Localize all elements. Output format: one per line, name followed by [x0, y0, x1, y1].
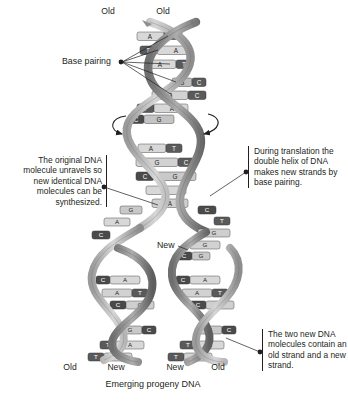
base-pair-rung: A T — [182, 289, 228, 297]
svg-text:G: G — [203, 241, 208, 248]
svg-text:C: C — [147, 326, 152, 333]
figure-caption: Emerging progeny DNA — [88, 379, 218, 389]
svg-text:G: G — [157, 116, 162, 123]
rotation-arrow-right — [204, 114, 218, 134]
svg-text:T: T — [220, 217, 224, 224]
svg-text:T: T — [138, 289, 142, 296]
label-old-top-right: Old — [148, 6, 178, 16]
svg-text:G: G — [129, 206, 134, 213]
annotation-left: The original DNA molecule unravels so ne… — [18, 155, 107, 207]
svg-text:G: G — [155, 159, 160, 166]
svg-text:G: G — [128, 326, 133, 333]
svg-text:A: A — [158, 61, 163, 68]
fork-base-right: G — [192, 252, 210, 260]
svg-text:A: A — [174, 47, 179, 54]
parent-helix: A T T A A T G C — [127, 20, 206, 232]
svg-text:C: C — [99, 231, 104, 238]
base-pair-rung: A T — [138, 144, 182, 153]
svg-text:T: T — [174, 353, 178, 360]
label-new-bottom-left: New — [101, 362, 131, 372]
svg-text:T: T — [94, 353, 98, 360]
svg-text:C: C — [205, 206, 210, 213]
svg-text:C: C — [143, 173, 148, 180]
base-pair-rung: C A — [176, 276, 220, 284]
svg-text:G: G — [173, 173, 178, 180]
svg-text:C: C — [101, 276, 106, 283]
svg-text:C: C — [195, 92, 200, 99]
svg-text:T: T — [172, 145, 176, 152]
right-bottom-annotation-leader — [226, 338, 262, 354]
svg-text:C: C — [116, 301, 121, 308]
daughter-helix-left: C A A T C G G C — [88, 228, 156, 362]
right-top-annotation-leader — [210, 170, 248, 196]
label-new-bottom-right: New — [160, 362, 190, 372]
svg-text:G: G — [212, 229, 217, 236]
svg-text:T: T — [186, 341, 190, 348]
svg-text:G: G — [199, 252, 204, 259]
base-pair-rung: A T — [102, 289, 148, 297]
fork-base-left: G — [120, 206, 142, 214]
fork-base-left: A — [104, 218, 130, 226]
base-pair-rung: C A — [96, 276, 140, 284]
svg-text:C: C — [197, 79, 202, 86]
svg-text:C: C — [184, 159, 189, 166]
svg-text:C: C — [227, 326, 232, 333]
annotation-right-top: During translation the double helix of D… — [248, 146, 346, 188]
svg-text:T: T — [218, 289, 222, 296]
svg-text:C: C — [181, 276, 186, 283]
label-old-bottom-left: Old — [56, 362, 84, 372]
svg-text:A: A — [148, 33, 153, 40]
label-old-top-left: Old — [93, 6, 123, 16]
fork-base-right: C — [198, 206, 216, 214]
label-base-pairing: Base pairing — [62, 56, 111, 66]
fork-base-right: T — [214, 217, 230, 225]
label-new-fork: New — [157, 240, 175, 250]
annotation-right-bottom: The two new DNA molecules contain an old… — [262, 329, 348, 371]
svg-text:A: A — [149, 145, 154, 152]
label-old-bottom-right: Old — [204, 362, 232, 372]
fork-base-left: C — [92, 231, 110, 239]
